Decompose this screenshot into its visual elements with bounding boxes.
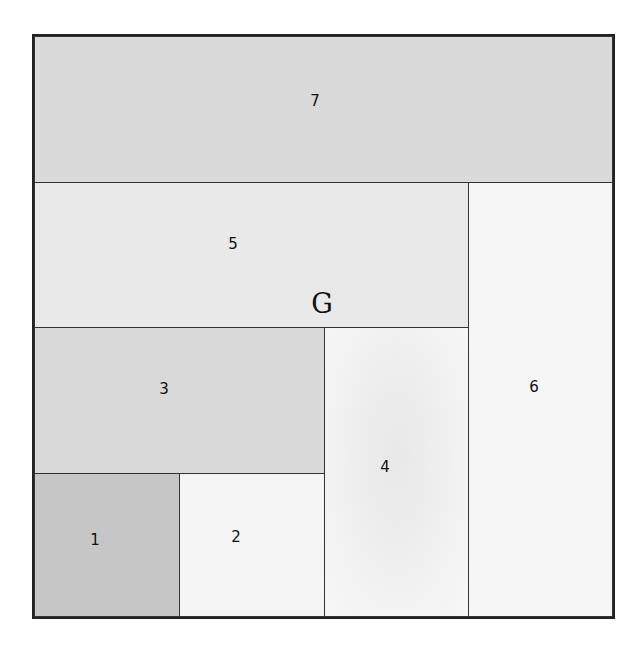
region-1 — [34, 473, 180, 617]
diagram-frame — [32, 34, 615, 619]
region-2 — [179, 473, 325, 617]
region-6 — [468, 182, 613, 617]
region-1-label: 1 — [90, 531, 100, 549]
region-2-label: 2 — [231, 528, 241, 546]
region-3 — [34, 327, 325, 474]
region-5-label: 5 — [228, 235, 238, 253]
region-4 — [324, 327, 469, 617]
region-6-label: 6 — [529, 378, 539, 396]
region-7-label: 7 — [310, 92, 320, 110]
diagram-letter-g: G — [311, 288, 333, 319]
region-7 — [34, 36, 613, 183]
region-4-label: 4 — [380, 458, 390, 476]
region-3-label: 3 — [159, 380, 169, 398]
region-5 — [34, 182, 469, 328]
